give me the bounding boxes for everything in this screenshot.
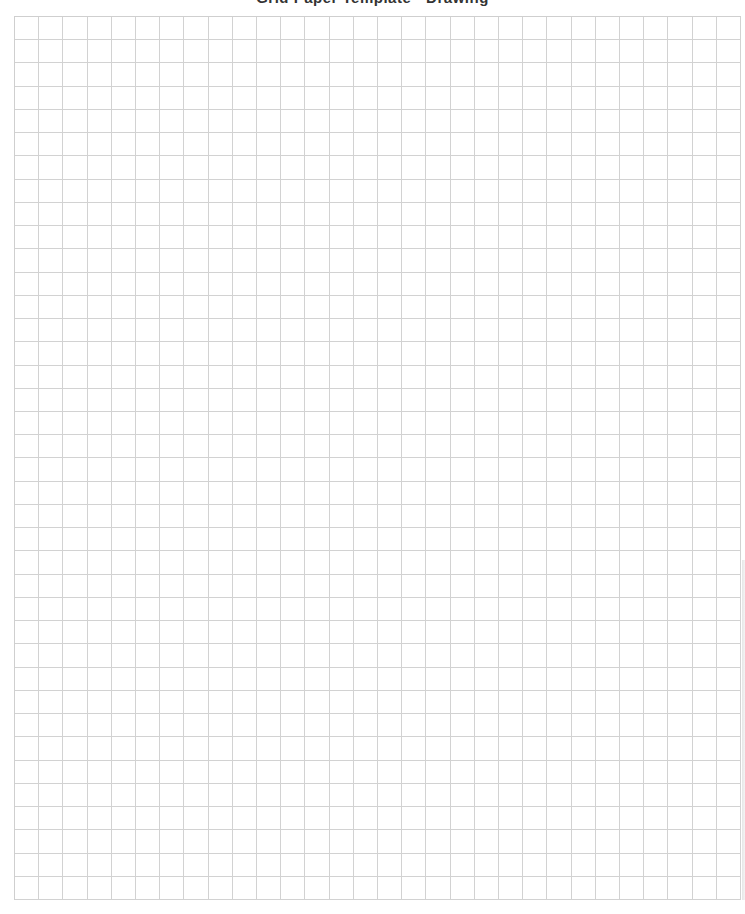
grid-cell xyxy=(330,668,354,691)
grid-cell xyxy=(596,668,620,691)
grid-cell xyxy=(547,180,571,203)
grid-cell xyxy=(281,830,305,853)
grid-cell xyxy=(305,226,329,249)
grid-cell xyxy=(451,458,475,481)
grid-cell xyxy=(305,830,329,853)
grid-cell xyxy=(39,598,63,621)
grid-cell xyxy=(112,17,136,40)
grid-cell xyxy=(330,575,354,598)
grid-cell xyxy=(112,854,136,877)
grid-cell xyxy=(330,784,354,807)
grid-cell xyxy=(233,63,257,86)
grid-cell xyxy=(596,319,620,342)
grid-cell xyxy=(184,63,208,86)
grid-cell xyxy=(475,319,499,342)
grid-cell xyxy=(39,830,63,853)
grid-cell xyxy=(88,807,112,830)
grid-cell xyxy=(15,551,39,574)
grid-cell xyxy=(596,575,620,598)
grid-cell xyxy=(257,110,281,133)
grid-cell xyxy=(233,528,257,551)
grid-cell xyxy=(644,830,668,853)
grid-cell xyxy=(596,505,620,528)
grid-cell xyxy=(596,830,620,853)
grid-cell xyxy=(112,621,136,644)
grid-cell xyxy=(499,621,523,644)
grid-cell xyxy=(281,342,305,365)
grid-cell xyxy=(88,40,112,63)
grid-cell xyxy=(668,203,692,226)
grid-cell xyxy=(572,110,596,133)
grid-cell xyxy=(281,644,305,667)
grid-cell xyxy=(112,203,136,226)
grid-cell xyxy=(693,17,717,40)
grid-cell xyxy=(620,319,644,342)
grid-cell xyxy=(63,296,87,319)
grid-cell xyxy=(596,807,620,830)
grid-cell xyxy=(402,412,426,435)
grid-cell xyxy=(451,249,475,272)
grid-cell xyxy=(668,784,692,807)
grid-cell xyxy=(426,575,450,598)
grid-cell xyxy=(402,505,426,528)
grid-cell xyxy=(330,807,354,830)
grid-cell xyxy=(184,737,208,760)
grid-cell xyxy=(15,668,39,691)
grid-cell xyxy=(15,389,39,412)
grid-cell xyxy=(136,63,160,86)
grid-cell xyxy=(402,761,426,784)
grid-cell xyxy=(451,40,475,63)
grid-cell xyxy=(426,668,450,691)
grid-cell xyxy=(112,737,136,760)
grid-cell xyxy=(717,63,741,86)
grid-cell xyxy=(233,389,257,412)
grid-cell xyxy=(136,342,160,365)
grid-cell xyxy=(233,296,257,319)
grid-cell xyxy=(233,598,257,621)
grid-cell xyxy=(717,389,741,412)
grid-cell xyxy=(257,668,281,691)
grid-cell xyxy=(426,482,450,505)
grid-cell xyxy=(233,737,257,760)
grid-cell xyxy=(717,133,741,156)
grid-cell xyxy=(209,528,233,551)
grid-cell xyxy=(475,63,499,86)
grid-cell xyxy=(620,505,644,528)
grid-cell xyxy=(257,226,281,249)
grid-cell xyxy=(523,203,547,226)
grid-cell xyxy=(15,644,39,667)
grid-cell xyxy=(136,435,160,458)
grid-cell xyxy=(668,133,692,156)
grid-cell xyxy=(547,249,571,272)
grid-cell xyxy=(451,668,475,691)
grid-cell xyxy=(354,691,378,714)
grid-cell xyxy=(257,40,281,63)
grid-cell xyxy=(426,830,450,853)
grid-cell xyxy=(305,342,329,365)
grid-cell xyxy=(305,807,329,830)
grid-cell xyxy=(402,366,426,389)
grid-cell xyxy=(112,714,136,737)
grid-cell xyxy=(620,389,644,412)
grid-cell xyxy=(475,598,499,621)
grid-cell xyxy=(523,575,547,598)
grid-cell xyxy=(451,830,475,853)
grid-cell xyxy=(354,249,378,272)
grid-cell xyxy=(717,714,741,737)
grid-cell xyxy=(209,249,233,272)
grid-cell xyxy=(668,877,692,900)
grid-cell xyxy=(136,691,160,714)
grid-cell xyxy=(499,296,523,319)
grid-cell xyxy=(475,714,499,737)
grid-cell xyxy=(668,412,692,435)
grid-cell xyxy=(451,63,475,86)
grid-cell xyxy=(281,133,305,156)
grid-cell xyxy=(15,249,39,272)
grid-cell xyxy=(499,505,523,528)
grid-cell xyxy=(451,854,475,877)
grid-cell xyxy=(693,412,717,435)
grid-cell xyxy=(717,854,741,877)
grid-cell xyxy=(499,319,523,342)
grid-cell xyxy=(184,458,208,481)
grid-cell xyxy=(184,668,208,691)
